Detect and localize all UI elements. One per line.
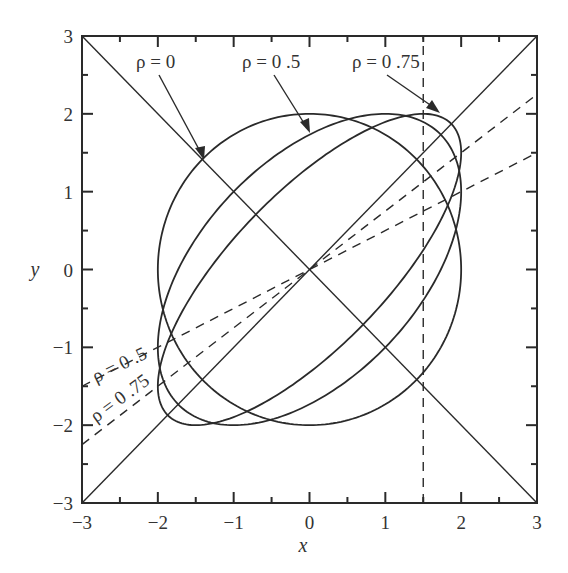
y-tick-label: 3 [64,26,74,47]
annotation-rho-0: ρ = 0 [136,51,205,160]
arrow-rho-0-5 [274,75,307,128]
bivariate-normal-contour-plot: −3−2−10123−3−2−10123 x y ρ = 0 ρ = 0 .5 … [0,0,568,573]
curves-layer [82,36,537,503]
x-axis-label: x [298,534,308,556]
x-tick-label: −1 [224,512,244,533]
arrowhead-icon [426,100,440,113]
y-tick-label: 2 [64,104,74,125]
arrow-rho-0 [159,75,202,155]
x-tick-label: 0 [305,512,315,533]
x-tick-label: 2 [456,512,466,533]
annotation-rho-0-5: ρ = 0 .5 [242,51,310,133]
annotation-label-rho-0-5: ρ = 0 .5 [242,51,300,72]
y-tick-label: −2 [53,415,73,436]
annotation-rho-0-75: ρ = 0 .75 [352,51,440,113]
y-tick-label: 0 [64,260,74,281]
y-axis-label: y [29,258,40,281]
y-tick-label: −3 [53,493,73,514]
y-tick-label: −1 [53,337,73,358]
x-tick-label: −3 [72,512,92,533]
x-tick-label: 1 [381,512,391,533]
annotation-label-rho-0: ρ = 0 [136,51,175,72]
x-tick-label: 3 [532,512,542,533]
arrow-rho-0-75 [387,75,436,109]
annotation-label-rho-0-75: ρ = 0 .75 [352,51,420,72]
y-tick-label: 1 [64,182,74,203]
x-tick-label: −2 [148,512,168,533]
